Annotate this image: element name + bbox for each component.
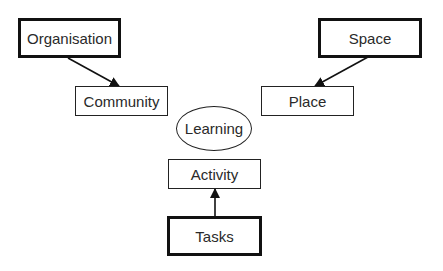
node-place: Place [261,86,354,116]
node-activity: Activity [168,159,261,189]
node-label: Activity [191,166,239,183]
node-label: Tasks [195,228,233,245]
node-label: Learning [185,120,243,137]
node-label: Community [84,93,160,110]
edge-space-place [315,57,368,86]
node-label: Organisation [27,30,112,47]
node-tasks: Tasks [167,216,262,256]
node-label: Space [349,30,392,47]
node-learning: Learning [176,106,252,151]
node-label: Place [289,93,327,110]
node-community: Community [75,86,168,116]
node-space: Space [318,18,422,58]
edge-organisation-community [68,58,119,86]
node-organisation: Organisation [18,18,121,58]
